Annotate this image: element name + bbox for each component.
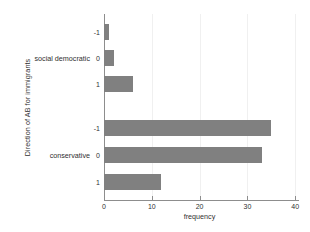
gridline (200, 14, 201, 200)
category-tick-label: 0 (96, 55, 100, 62)
bar-chart: Direction of AB for immigrants 010203040… (0, 0, 310, 232)
x-tick-label: 20 (196, 203, 204, 210)
gridline (152, 14, 153, 200)
gridline (295, 14, 296, 200)
category-tick-label: -1 (94, 125, 100, 132)
x-axis-title: frequency (104, 212, 295, 221)
category-tick-label: 1 (96, 179, 100, 186)
x-tick-label: 40 (291, 203, 299, 210)
gridline (247, 14, 248, 200)
y-axis-title: Direction of AB for immigrants (23, 23, 32, 193)
y-axis-line (104, 14, 105, 200)
x-tick-label: 0 (102, 203, 106, 210)
x-axis-line (104, 200, 299, 201)
group-label: social democratic (34, 54, 90, 63)
plot-area (104, 14, 295, 200)
category-tick-label: 1 (96, 81, 100, 88)
group-label: conservative (50, 151, 90, 160)
category-tick-label: -1 (94, 29, 100, 36)
category-tick-label: 0 (96, 152, 100, 159)
x-tick-label: 30 (243, 203, 251, 210)
x-tick-label: 10 (148, 203, 156, 210)
